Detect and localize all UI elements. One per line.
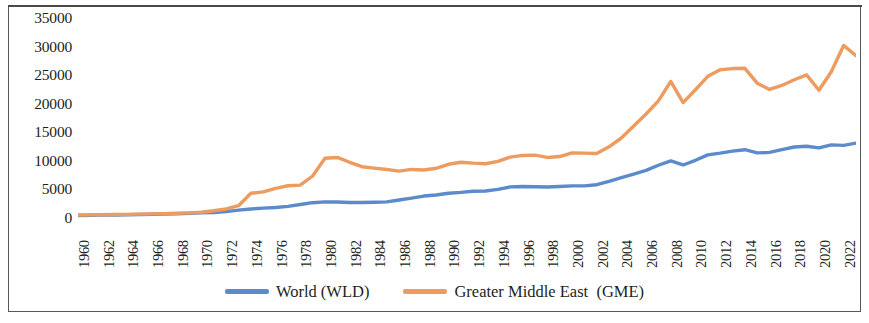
x-axis-tick-label: 2016 <box>769 240 784 268</box>
x-axis-tick-label: 1970 <box>200 240 215 268</box>
y-axis-tick-label: 5000 <box>10 181 72 197</box>
x-axis-tick-label: 2014 <box>744 240 759 268</box>
x-axis-tick-label: 2020 <box>818 240 833 268</box>
x-axis-tick-label: 2008 <box>670 240 685 268</box>
x-axis-tick-label: 1994 <box>497 240 512 268</box>
x-axis-tick-label: 2012 <box>719 240 734 268</box>
x-axis-tick-label: 1978 <box>299 240 314 268</box>
x-axis-tick-label: 1988 <box>423 240 438 268</box>
chart-legend: World (WLD)Greater Middle East (GME) <box>0 283 869 300</box>
legend-label: World (WLD) <box>276 283 370 300</box>
y-axis-tick-label: 10000 <box>10 153 72 169</box>
x-axis-tick-label: 2000 <box>571 240 586 268</box>
x-axis-tick-label: 1962 <box>102 240 117 268</box>
y-axis-tick-label: 15000 <box>10 124 72 140</box>
legend-swatch-world <box>225 289 269 294</box>
y-axis-tick-label: 30000 <box>10 39 72 55</box>
x-axis-tick-label: 1996 <box>522 240 537 268</box>
legend-entry[interactable]: Greater Middle East (GME) <box>403 283 644 300</box>
y-axis-tick-label: 20000 <box>10 96 72 112</box>
y-axis-tick-label: 25000 <box>10 67 72 83</box>
legend-swatch-gme <box>403 289 447 294</box>
x-axis-tick-label: 1992 <box>472 240 487 268</box>
x-axis-tick-label: 1976 <box>275 240 290 268</box>
x-axis-tick-label: 1980 <box>324 240 339 268</box>
chart-figure: 35000300002500020000150001000050000 1960… <box>0 0 869 323</box>
x-axis-tick-label: 2018 <box>793 240 808 268</box>
x-axis-tick-label: 2010 <box>694 240 709 268</box>
x-axis-tick-label: 1966 <box>151 240 166 268</box>
x-axis-tick-label: 2004 <box>620 240 635 268</box>
y-axis-tick-label: 35000 <box>10 10 72 26</box>
x-axis-tick-label: 1984 <box>373 240 388 268</box>
plot-area <box>78 18 856 218</box>
x-axis-tick-label: 1972 <box>225 240 240 268</box>
series-line-gme <box>78 45 856 215</box>
x-axis-tick-label: 1986 <box>398 240 413 268</box>
x-axis-tick-label: 1982 <box>349 240 364 268</box>
y-axis-tick-label: 0 <box>10 210 72 226</box>
legend-label: Greater Middle East (GME) <box>454 283 644 300</box>
x-axis-tick-label: 1974 <box>250 240 265 268</box>
legend-entry[interactable]: World (WLD) <box>225 283 370 300</box>
x-axis-tick-label: 2002 <box>596 240 611 268</box>
x-axis-tick-label: 1990 <box>447 240 462 268</box>
x-axis-tick-label: 1968 <box>176 240 191 268</box>
x-axis: 1960196219641966196819701972197419761978… <box>78 222 856 278</box>
series-line-wld <box>78 143 856 215</box>
x-axis-tick-label: 2006 <box>645 240 660 268</box>
x-axis-tick-label: 2022 <box>843 240 858 268</box>
line-chart-svg <box>78 18 856 218</box>
x-axis-tick-label: 1998 <box>546 240 561 268</box>
x-axis-tick-label: 1964 <box>126 240 141 268</box>
x-axis-tick-label: 1960 <box>77 240 92 268</box>
y-axis: 35000300002500020000150001000050000 <box>10 12 72 224</box>
